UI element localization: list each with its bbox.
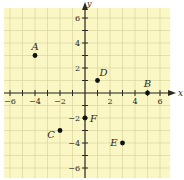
y-axis-label: y bbox=[86, 0, 92, 8]
x-tick-label: 6 bbox=[157, 97, 162, 106]
x-tick-label: −2 bbox=[54, 97, 66, 106]
x-tick-label: 2 bbox=[107, 97, 112, 106]
x-tick-label: −4 bbox=[29, 97, 41, 106]
point-marker-icon bbox=[58, 128, 63, 133]
point-label: A bbox=[30, 41, 38, 52]
point-marker-icon bbox=[33, 53, 38, 58]
point-label: E bbox=[109, 137, 118, 148]
x-tick-label: 4 bbox=[132, 97, 137, 106]
point-label: B bbox=[143, 78, 151, 89]
y-tick-label: −6 bbox=[68, 164, 80, 173]
point-marker-icon bbox=[95, 78, 100, 83]
point-label: D bbox=[99, 67, 108, 78]
y-tick-label: 6 bbox=[75, 14, 80, 23]
point-label: F bbox=[89, 113, 98, 124]
point-marker-icon bbox=[120, 141, 125, 146]
x-axis-label: x bbox=[178, 88, 183, 98]
coordinate-plane: −6−4−2246642−2−4−6 x y ABCDEF bbox=[0, 0, 184, 180]
point-marker-icon bbox=[83, 116, 88, 121]
y-tick-label: −4 bbox=[68, 139, 80, 148]
y-tick-label: −2 bbox=[68, 114, 80, 123]
y-tick-label: 4 bbox=[75, 39, 80, 48]
x-tick-label: −6 bbox=[4, 97, 16, 106]
x-axis-arrow-icon bbox=[168, 90, 176, 96]
y-tick-label: 2 bbox=[75, 64, 80, 73]
point-label: C bbox=[47, 129, 55, 140]
point-marker-icon bbox=[145, 91, 150, 96]
